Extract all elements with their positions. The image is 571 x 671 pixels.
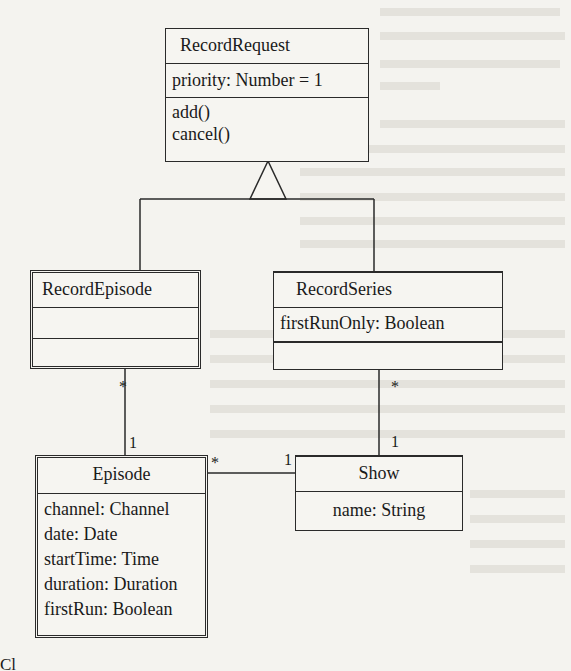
multiplicity-record-episode-source: * — [119, 379, 127, 395]
attributes-section: firstRunOnly: Boolean — [274, 307, 502, 342]
attribute: duration: Duration — [44, 572, 199, 597]
class-show[interactable]: Show name: String — [295, 455, 463, 531]
attributes-section — [33, 307, 198, 338]
attribute: firstRunOnly: Boolean — [280, 312, 496, 334]
attribute: channel: Channel — [44, 497, 199, 522]
attributes-section: name: String — [296, 491, 462, 529]
multiplicity-record-series-target: 1 — [391, 434, 399, 450]
attribute: date: Date — [44, 522, 199, 547]
class-record-series[interactable]: RecordSeries firstRunOnly: Boolean — [273, 271, 503, 370]
class-name: RecordSeries — [274, 273, 502, 307]
multiplicity-episode-show-source: * — [211, 455, 219, 471]
attribute: firstRun: Boolean — [44, 597, 199, 622]
operations-section — [33, 338, 198, 368]
class-record-request[interactable]: RecordRequest priority: Number = 1 add()… — [165, 28, 369, 162]
operation: add() — [172, 101, 362, 123]
operations-section — [274, 342, 502, 369]
multiplicity-record-episode-target: 1 — [129, 435, 137, 451]
operation: cancel() — [172, 123, 362, 145]
attribute: name: String — [302, 499, 456, 521]
class-record-episode[interactable]: RecordEpisode — [30, 270, 201, 369]
attribute: priority: Number = 1 — [172, 69, 362, 91]
operations-section: add() cancel() — [166, 97, 368, 160]
class-name: Episode — [38, 458, 205, 493]
class-name: RecordEpisode — [33, 273, 198, 307]
attributes-section: priority: Number = 1 — [166, 63, 368, 97]
multiplicity-episode-show-target: 1 — [284, 452, 292, 468]
class-episode[interactable]: Episode channel: Channel date: Date star… — [35, 455, 208, 638]
multiplicity-record-series-source: * — [391, 379, 399, 395]
figure-caption: Cl — [0, 655, 16, 671]
generalization-arrow-icon — [250, 161, 286, 199]
class-name: RecordRequest — [166, 29, 368, 63]
class-name: Show — [296, 457, 462, 491]
attributes-section: channel: Channel date: Date startTime: T… — [38, 493, 205, 625]
attribute: startTime: Time — [44, 547, 199, 572]
